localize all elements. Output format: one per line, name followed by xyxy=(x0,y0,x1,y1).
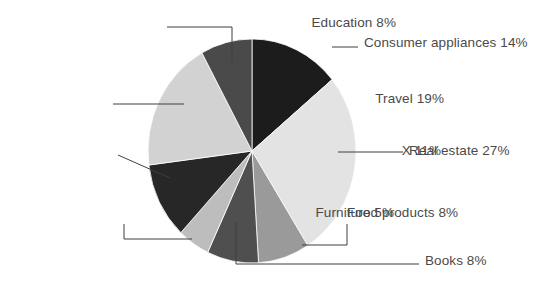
pie-chart: Consumer appliances 14%Real estate 27%Fo… xyxy=(0,0,557,285)
pie-slices-group xyxy=(148,39,356,263)
pie-label-books: Books 8% xyxy=(425,254,487,269)
pie-label-x: X 11% xyxy=(402,144,441,159)
pie-label-education: Education 8% xyxy=(311,16,396,31)
pie-label-furniture: Furniture 5% xyxy=(316,206,394,221)
pie-label-consumer-appliances: Consumer appliances 14% xyxy=(364,36,528,51)
pie-label-travel: Travel 19% xyxy=(375,92,444,107)
